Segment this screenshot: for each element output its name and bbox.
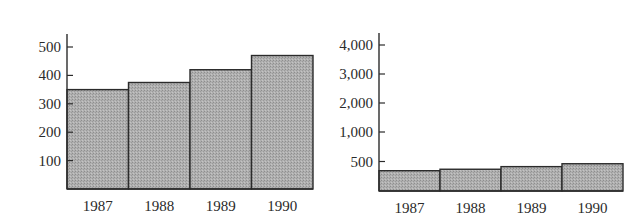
y-tick-label: 3,000 [339, 66, 373, 82]
y-tick-label: 500 [351, 154, 374, 170]
bar-1987 [67, 90, 129, 189]
bar-1988 [440, 169, 501, 191]
x-tick-label: 1988 [144, 198, 174, 214]
right-bar-chart: 19871988198919905001,0002,0003,0004,000 [339, 33, 623, 216]
y-tick-label: 2,000 [339, 95, 373, 111]
x-tick-label: 1990 [578, 200, 608, 216]
x-tick-label: 1990 [267, 198, 297, 214]
bar-1990 [252, 56, 314, 189]
bar-1987 [379, 171, 440, 191]
y-tick-label: 4,000 [339, 37, 373, 53]
x-tick-label: 1987 [83, 198, 114, 214]
bar-1989 [190, 70, 252, 189]
x-tick-label: 1988 [456, 200, 486, 216]
y-tick-label: 200 [39, 124, 62, 140]
bar-1989 [501, 167, 562, 191]
x-tick-label: 1989 [206, 198, 236, 214]
y-tick-label: 500 [39, 39, 62, 55]
bar-1988 [129, 83, 191, 190]
y-tick-label: 100 [39, 153, 62, 169]
chart-canvas: 1987198819891990100200300400500 19871988… [0, 0, 642, 222]
left-bar-chart: 1987198819891990100200300400500 [39, 34, 314, 214]
x-tick-label: 1989 [517, 200, 547, 216]
y-tick-label: 1,000 [339, 124, 373, 140]
bar-1990 [562, 164, 623, 191]
y-tick-label: 300 [39, 96, 62, 112]
y-tick-label: 400 [39, 67, 62, 83]
x-tick-label: 1987 [395, 200, 426, 216]
